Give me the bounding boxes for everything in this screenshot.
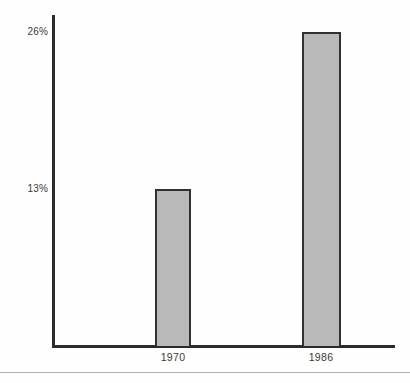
bar-1970 bbox=[155, 189, 191, 346]
y-tick-label-26: 26% bbox=[4, 27, 48, 37]
footer-divider bbox=[0, 372, 410, 373]
y-tick-label-13: 13% bbox=[4, 184, 48, 194]
bar-1986 bbox=[302, 32, 341, 346]
x-axis-label-1970: 1970 bbox=[143, 352, 203, 363]
x-axis-line bbox=[52, 345, 395, 348]
y-axis-line bbox=[52, 15, 55, 348]
plot-area: 26% 13% 1970 1986 bbox=[0, 0, 410, 383]
bar-chart-figure: 26% 13% 1970 1986 bbox=[0, 0, 410, 383]
x-axis-label-1986: 1986 bbox=[291, 352, 351, 363]
